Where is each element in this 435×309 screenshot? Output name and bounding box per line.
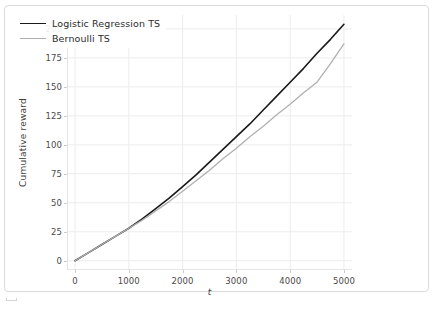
x-tick-label: 4000 <box>279 276 301 286</box>
y-tick-label: 150 <box>45 82 62 92</box>
x-tick-label: 1000 <box>118 276 140 286</box>
series-line <box>75 44 344 261</box>
x-tick-mark <box>290 270 291 273</box>
y-axis-label: Cumulative reward <box>17 15 29 270</box>
figure-card: Cumulative reward t 02550751001251501752… <box>4 5 429 292</box>
legend-label: Bernoulli TS <box>52 33 110 44</box>
y-tick-mark <box>64 87 67 88</box>
legend-item[interactable]: Bernoulli TS <box>20 32 160 45</box>
series-line <box>75 24 344 260</box>
y-tick-label: 75 <box>51 169 62 179</box>
legend-item[interactable]: Logistic Regression TS <box>20 17 160 30</box>
x-tick-mark <box>236 270 237 273</box>
y-tick-mark <box>64 261 67 262</box>
x-tick-mark <box>129 270 130 273</box>
x-tick-label: 0 <box>72 276 78 286</box>
chart-canvas <box>67 15 352 270</box>
y-tick-mark <box>64 203 67 204</box>
x-tick-mark <box>183 270 184 273</box>
chart-legend: Logistic Regression TSBernoulli TS <box>16 14 166 48</box>
x-tick-label: 5000 <box>333 276 355 286</box>
y-tick-label: 50 <box>51 198 62 208</box>
y-tick-mark <box>64 174 67 175</box>
plot-area: 0255075100125150175200 01000200030004000… <box>67 15 352 270</box>
y-tick-label: 125 <box>45 111 62 121</box>
y-tick-mark <box>64 116 67 117</box>
grid-lines <box>67 15 352 270</box>
clipped-caption-strip <box>0 298 435 309</box>
x-tick-label: 2000 <box>172 276 194 286</box>
caption-bullet-icon <box>6 298 17 301</box>
x-tick-mark <box>344 270 345 273</box>
legend-line-icon <box>20 38 46 39</box>
series-lines <box>75 24 344 260</box>
x-tick-mark <box>75 270 76 273</box>
x-axis-label: t <box>67 287 352 297</box>
y-tick-mark <box>64 145 67 146</box>
legend-label: Logistic Regression TS <box>52 18 160 29</box>
legend-line-icon <box>20 23 46 24</box>
y-tick-label: 100 <box>45 140 62 150</box>
y-tick-mark <box>64 58 67 59</box>
y-tick-mark <box>64 232 67 233</box>
x-tick-label: 3000 <box>225 276 247 286</box>
y-tick-label: 175 <box>45 53 62 63</box>
y-tick-label: 0 <box>56 256 62 266</box>
y-tick-label: 25 <box>51 227 62 237</box>
